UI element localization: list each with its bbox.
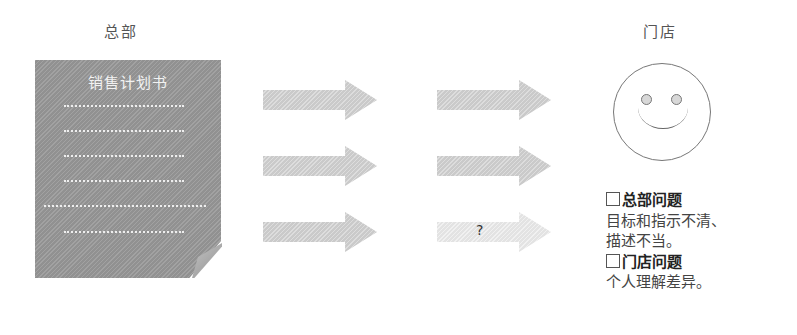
question-mark-label: ? bbox=[476, 222, 483, 238]
document-line bbox=[64, 180, 184, 182]
store-problem-heading: 门店问题 bbox=[606, 252, 726, 273]
arrow-right-icon bbox=[263, 80, 377, 120]
smiley-face-icon bbox=[613, 63, 711, 161]
arrow-right-icon bbox=[437, 146, 551, 186]
right-eye bbox=[671, 94, 682, 105]
document-line bbox=[64, 155, 184, 157]
sales-plan-document: 销售计划书 bbox=[35, 60, 221, 278]
checkbox-icon bbox=[606, 254, 620, 268]
document-title: 销售计划书 bbox=[35, 71, 221, 92]
document-line bbox=[64, 130, 184, 132]
smile-mouth bbox=[638, 108, 688, 129]
hq-problem-heading: 总部问题 bbox=[606, 190, 726, 211]
document-line bbox=[64, 105, 184, 107]
store-label: 门店 bbox=[643, 20, 677, 41]
arrow-right-faint-icon bbox=[437, 212, 551, 252]
hq-problem-line: 目标和指示不清、 bbox=[606, 211, 726, 232]
store-problem-line: 个人理解差异。 bbox=[606, 272, 726, 293]
arrow-right-icon bbox=[437, 80, 551, 120]
left-eye bbox=[641, 94, 652, 105]
headquarters-label: 总部 bbox=[104, 20, 138, 41]
hq-problem-line: 描述不当。 bbox=[606, 231, 726, 252]
document-line bbox=[64, 231, 184, 233]
checkbox-icon bbox=[606, 192, 620, 206]
document-line bbox=[44, 205, 206, 207]
arrow-right-icon bbox=[263, 212, 377, 252]
arrow-right-icon bbox=[263, 146, 377, 186]
problem-notes: 总部问题 目标和指示不清、 描述不当。 门店问题 个人理解差异。 bbox=[606, 190, 726, 293]
